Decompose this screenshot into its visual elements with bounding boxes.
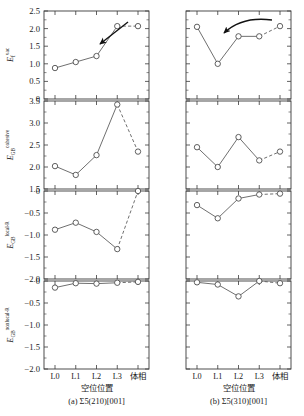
- panel-b2: [186, 101, 291, 189]
- multi-panel-line-chart: 00.51.01.52.02.51.52.02.53.03.5−2.0−1.5−…: [0, 0, 304, 416]
- panel-a2: [44, 101, 149, 189]
- y-axis-label-text: EGBlocal-R: [4, 221, 16, 250]
- data-point-L1: [215, 164, 220, 169]
- y-label-sub: f: [10, 55, 16, 57]
- data-point-L2: [94, 229, 99, 234]
- y-label-sub: GB: [10, 236, 16, 244]
- data-point-体相: [277, 149, 282, 154]
- data-point-L0: [194, 24, 199, 29]
- x-tick-label-a-4: 体相: [130, 371, 146, 381]
- panel-frame-b3: [186, 191, 291, 279]
- y-label-sup: nonlocal-R: [4, 307, 10, 331]
- y-tick-label: −2.0: [24, 364, 40, 374]
- y-tick-label: 2.0: [29, 162, 40, 172]
- panel-a4: [44, 279, 149, 369]
- y-tick-label: 1.0: [29, 59, 40, 69]
- panel-a1: [44, 11, 149, 99]
- y-axis-label-text: EGBnonlocal-R: [4, 307, 16, 344]
- y-label-sub: GB: [10, 330, 16, 338]
- data-point-L2: [236, 196, 241, 201]
- y-tick-label: −1.5: [24, 252, 40, 262]
- y-tick-label: 2.5: [29, 140, 40, 150]
- data-point-L3: [257, 34, 262, 39]
- y-label-sub: GB: [10, 147, 16, 155]
- data-point-L3: [115, 102, 120, 107]
- y-tick-label: −1.0: [24, 320, 40, 330]
- y-axis-label-text: Efvac: [4, 47, 16, 63]
- panel-frame-a4: [44, 281, 149, 369]
- data-point-体相: [135, 23, 140, 28]
- data-point-L3: [115, 23, 120, 28]
- data-point-体相: [277, 191, 282, 196]
- panel-a3: [44, 188, 149, 279]
- data-point-L3: [115, 280, 120, 285]
- x-tick-label-b-4: 体相: [272, 371, 288, 381]
- panel-frame-b2: [186, 101, 291, 189]
- x-axis-title-b: 空位位置: [223, 383, 255, 393]
- data-point-L2: [236, 294, 241, 299]
- y-tick-label: 2.0: [29, 24, 40, 34]
- x-tick-label-b-0: L0: [192, 372, 201, 381]
- y-tick-label: 1.5: [29, 41, 40, 51]
- data-point-L0: [194, 202, 199, 207]
- data-point-L3: [257, 192, 262, 197]
- data-point-体相: [277, 281, 282, 286]
- data-point-L1: [73, 281, 78, 286]
- y-label-sup: cohesive: [4, 129, 10, 148]
- y-label-sup: vac: [4, 47, 10, 55]
- data-point-L2: [94, 281, 99, 286]
- x-tick-label-b-1: L1: [213, 372, 222, 381]
- data-point-L2: [94, 152, 99, 157]
- y-label-sup: local-R: [4, 221, 10, 237]
- data-point-L1: [215, 61, 220, 66]
- panel-caption-a: (a) Σ5(210)[001]: [68, 397, 125, 406]
- data-point-L0: [194, 280, 199, 285]
- x-tick-label-b-2: L2: [234, 372, 243, 381]
- y-axis-label-row2: EGBcohesive: [4, 129, 16, 161]
- data-point-L2: [236, 134, 241, 139]
- data-point-L1: [215, 216, 220, 221]
- data-point-体相: [135, 149, 140, 154]
- panel-b3: [186, 191, 291, 279]
- y-axis-label-row3: EGBlocal-R: [4, 221, 16, 250]
- y-tick-label: −0.5: [24, 208, 40, 218]
- data-point-L1: [73, 220, 78, 225]
- panel-caption-b: (b) Σ5(310)[001]: [210, 397, 267, 406]
- y-tick-label: 3.5: [29, 96, 40, 106]
- data-point-L1: [73, 172, 78, 177]
- data-point-体相: [277, 23, 282, 28]
- data-point-L0: [52, 163, 57, 168]
- x-tick-label-a-0: L0: [50, 372, 59, 381]
- data-point-L1: [73, 59, 78, 64]
- y-tick-label: −1.5: [24, 342, 40, 352]
- figure-container: 00.51.01.52.02.51.52.02.53.03.5−2.0−1.5−…: [0, 0, 304, 416]
- x-tick-label-a-1: L1: [71, 372, 80, 381]
- data-point-体相: [135, 188, 140, 193]
- data-point-L2: [236, 34, 241, 39]
- y-tick-label: 0.5: [29, 76, 40, 86]
- y-tick-label: 0: [36, 276, 40, 286]
- data-point-L0: [52, 65, 57, 70]
- y-tick-label: −1.0: [24, 230, 40, 240]
- y-axis-label-row1: Efvac: [4, 47, 16, 63]
- y-axis-label-row4: EGBnonlocal-R: [4, 307, 16, 344]
- data-point-L0: [52, 227, 57, 232]
- x-tick-label-a-2: L2: [92, 372, 101, 381]
- panel-b4: [186, 278, 291, 369]
- y-tick-label: 3.0: [29, 118, 40, 128]
- data-point-L0: [194, 145, 199, 150]
- panel-frame-a2: [44, 101, 149, 189]
- y-tick-label: −0.5: [24, 298, 40, 308]
- y-axis-label-text: EGBcohesive: [4, 129, 16, 161]
- data-point-L3: [115, 246, 120, 251]
- y-tick-label: 0: [36, 186, 40, 196]
- data-point-L3: [257, 278, 262, 283]
- x-axis-title-a: 空位位置: [81, 383, 113, 393]
- data-point-L1: [215, 282, 220, 287]
- data-point-L3: [257, 158, 262, 163]
- x-tick-label-a-3: L3: [113, 372, 122, 381]
- data-point-L0: [52, 285, 57, 290]
- x-tick-label-b-3: L3: [255, 372, 264, 381]
- data-point-L2: [94, 53, 99, 58]
- y-tick-label: 2.5: [29, 6, 40, 16]
